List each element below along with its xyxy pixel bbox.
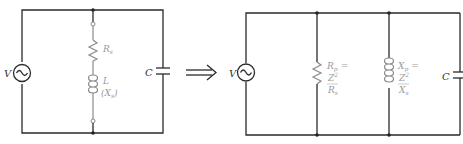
- parallel-resistor-denominator: Rs: [327, 85, 338, 96]
- resistor-icon: [89, 40, 97, 61]
- capacitor-icon: [156, 68, 170, 74]
- left-circuit: V Rs L (Xs) C: [4, 8, 170, 135]
- terminal-icon: [91, 22, 95, 26]
- terminal-icon: [91, 119, 95, 123]
- left-source-label: V: [4, 68, 13, 79]
- series-reactance-label: (Xs): [101, 88, 118, 99]
- inductor-icon: [385, 58, 394, 82]
- resistor-icon: [313, 62, 321, 84]
- series-resistor-label: Rs: [102, 44, 113, 55]
- equivalence-arrow-icon: [186, 65, 216, 80]
- ac-source-icon: [238, 64, 255, 81]
- parallel-inductor-denominator: Xs: [398, 85, 409, 96]
- right-circuit: V Rp= Z2 Rs Xp= Z2 Xs C: [229, 11, 463, 137]
- ac-source-icon: [14, 65, 31, 82]
- parallel-resistor-numerator: Z2: [327, 71, 338, 83]
- inductor-icon: [89, 75, 98, 93]
- right-bottom-wire: [246, 82, 460, 135]
- circuit-diagram: V Rs L (Xs) C: [0, 0, 463, 144]
- parallel-inductor-numerator: Z2: [398, 71, 409, 83]
- left-capacitor-label: C: [145, 67, 153, 78]
- right-source-label: V: [229, 68, 238, 79]
- right-top-wire: [246, 13, 460, 63]
- right-capacitor-label: C: [442, 71, 450, 82]
- series-inductor-label: L: [102, 76, 109, 86]
- capacitor-icon: [453, 72, 463, 78]
